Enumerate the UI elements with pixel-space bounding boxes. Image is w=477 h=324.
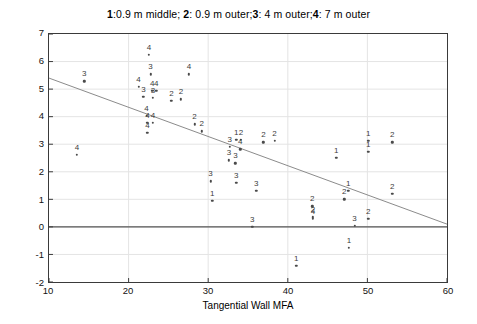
y-axis-ticks: -2-101234567 [14, 33, 44, 283]
title-segment: : 0.9 m outer; [189, 8, 252, 20]
data-point-label: 3 [141, 86, 145, 94]
chart-title: 1:0.9 m middle; 2: 0.9 m outer;3: 4 m ou… [0, 8, 477, 20]
trend-line [49, 78, 447, 224]
data-point-label: 1 [366, 130, 370, 138]
data-point-label: 4 [147, 44, 151, 52]
data-point-label: 2 [272, 130, 276, 138]
x-axis-ticks: 102030405060 [48, 285, 448, 301]
data-point-label: 1 [294, 255, 298, 263]
data-point-label: 3 [352, 215, 356, 223]
data-point-label: 3 [254, 180, 258, 188]
data-point-label: 3 [250, 216, 254, 224]
y-tick-label: -1 [18, 249, 44, 260]
data-point-label: 3 [233, 152, 237, 160]
data-point-label: 2 [390, 183, 394, 191]
chart-figure: 1:0.9 m middle; 2: 0.9 m outer;3: 4 m ou… [0, 0, 477, 324]
data-point-label: 4 [238, 138, 242, 146]
data-point-label: 4 [145, 122, 149, 130]
y-tick-label: 3 [18, 138, 44, 149]
data-point-label: 4 [311, 208, 315, 216]
y-tick-label: 1 [18, 194, 44, 205]
data-point-label: 1 [210, 190, 214, 198]
x-tick-label: 50 [353, 285, 383, 296]
data-point-label: 3 [148, 63, 152, 71]
data-point-label: 2 [192, 113, 196, 121]
data-point-label: 3 [234, 172, 238, 180]
data-point-label: 2 [169, 90, 173, 98]
y-tick-label: 0 [18, 221, 44, 232]
data-point-label: 4 [187, 63, 191, 71]
data-point-label: 3 [228, 136, 232, 144]
x-tick-label: 20 [113, 285, 143, 296]
title-segment: :0.9 m middle; [113, 8, 183, 20]
data-point-label: 3 [82, 70, 86, 78]
plot-svg [49, 34, 447, 282]
x-tick-label: 10 [33, 285, 63, 296]
y-tick-label: 2 [18, 166, 44, 177]
y-tick-label: 5 [18, 83, 44, 94]
data-point-label: 1 [334, 147, 338, 155]
data-point-label: 2 [342, 188, 346, 196]
data-point-label: 4 [75, 144, 79, 152]
data-point-label: 2 [261, 131, 265, 139]
data-point-label: 1 [347, 237, 351, 245]
data-point-label: 4 [154, 80, 158, 88]
data-point-label: 4 [136, 76, 140, 84]
data-point-label: 2 [200, 120, 204, 128]
x-axis-label: Tangential Wall MFA [48, 300, 448, 311]
data-point-label: 2 [390, 131, 394, 139]
y-tick-label: 7 [18, 27, 44, 38]
data-point-label: 1 [346, 180, 350, 188]
plot-area: 1111111122222222222223333333333334444444… [48, 33, 448, 283]
data-point-label: 3 [208, 170, 212, 178]
y-tick-label: 4 [18, 110, 44, 121]
title-segment: : 4 m outer; [258, 8, 312, 20]
y-tick-label: 6 [18, 55, 44, 66]
x-tick-label: 40 [273, 285, 303, 296]
data-point-label: 2 [239, 129, 243, 137]
data-point-label: 3 [227, 149, 231, 157]
data-point-label: 1 [366, 141, 370, 149]
data-point-label: 2 [310, 195, 314, 203]
data-point-label: 4 [145, 112, 149, 120]
x-tick-label: 30 [193, 285, 223, 296]
data-point-label: 2 [179, 88, 183, 96]
title-segment: : 7 m outer [319, 8, 370, 20]
data-point-label: 1 [234, 129, 238, 137]
data-point-label: 4 [151, 112, 155, 120]
data-point-label: 2 [366, 208, 370, 216]
x-tick-label: 60 [433, 285, 463, 296]
